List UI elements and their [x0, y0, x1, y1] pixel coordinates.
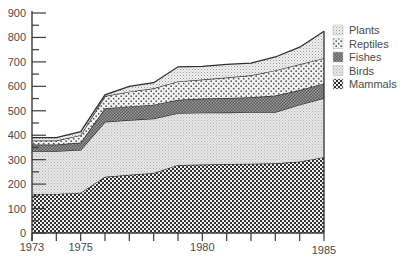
legend-swatch-plants [333, 25, 343, 35]
y-tick-label: 300 [8, 154, 26, 166]
legend-label-fishes: Fishes [349, 51, 382, 63]
y-tick-label: 700 [8, 56, 26, 68]
legend-swatch-reptiles [333, 39, 343, 49]
legend-label-birds: Birds [349, 65, 375, 77]
y-tick-label: 900 [8, 7, 26, 19]
y-tick-label: 600 [8, 80, 26, 92]
x-tick-label: 1975 [68, 241, 92, 253]
x-tick-label: 1985 [312, 244, 336, 256]
area-layers [32, 31, 324, 233]
x-tick-label: 1973 [20, 241, 44, 253]
y-tick-label: 0 [20, 227, 26, 239]
stacked-area-chart: 0100200300400500600700800900197319751980… [0, 0, 405, 265]
y-tick-label: 800 [8, 31, 26, 43]
legend-swatch-fishes [333, 52, 343, 62]
legend-label-plants: Plants [349, 24, 380, 36]
legend-swatch-mammals [333, 79, 343, 89]
y-tick-label: 400 [8, 129, 26, 141]
y-tick-label: 200 [8, 178, 26, 190]
legend-label-mammals: Mammals [349, 78, 397, 90]
legend-label-reptiles: Reptiles [349, 38, 389, 50]
legend: PlantsReptilesFishesBirdsMammals [333, 24, 397, 90]
y-tick-label: 500 [8, 105, 26, 117]
legend-swatch-birds [333, 66, 343, 76]
x-tick-label: 1980 [190, 241, 214, 253]
y-tick-label: 100 [8, 203, 26, 215]
